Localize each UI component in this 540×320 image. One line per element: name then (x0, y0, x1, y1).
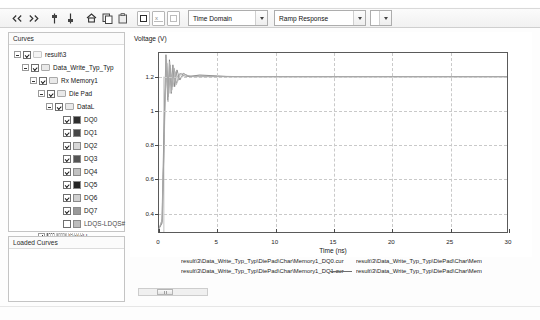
tree-node-checkbox[interactable] (63, 129, 71, 137)
curve-color-swatch[interactable] (73, 181, 81, 189)
tree-node[interactable]: Die Pad (9, 87, 124, 100)
collapse-icon[interactable] (13, 50, 22, 59)
collapse-icon[interactable] (37, 89, 46, 98)
chevron-down-icon[interactable] (379, 11, 391, 25)
tree-node-label: DQ6 (84, 194, 97, 201)
tree-node[interactable]: DQ6 (9, 191, 124, 204)
curve-color-swatch[interactable] (73, 129, 81, 137)
tree-node-label: DQ3 (84, 155, 97, 162)
domain-select[interactable]: Time Domain (188, 10, 268, 26)
y-tick-label: 0.6 (136, 175, 154, 182)
tree-indent-spacer (53, 180, 62, 189)
legend-entry[interactable]: result\3\Data_Write_Typ_Typ\DiePad\Char\… (330, 268, 482, 274)
legend-entry-label: result\3\Data_Write_Typ_Typ\DiePad\Char\… (356, 268, 482, 274)
tree-node-checkbox[interactable] (55, 103, 63, 111)
y-tick-label: 1 (136, 107, 154, 114)
tree-node-checkbox[interactable] (63, 116, 71, 124)
copy-icon[interactable] (100, 10, 115, 27)
x-gridline (451, 53, 452, 232)
tree-node-checkbox[interactable] (31, 64, 39, 72)
x-tick-label: 0 (156, 238, 159, 245)
vertical-marker-icon[interactable] (47, 10, 62, 27)
y-tick-label: 0.4 (136, 209, 154, 216)
curve-color-swatch[interactable] (73, 168, 81, 176)
y-gridline (159, 77, 507, 78)
curves-tree[interactable]: result\3Data_Write_Typ_TypRx Memory1Die … (9, 45, 124, 243)
tree-node[interactable]: DQ4 (9, 165, 124, 178)
x-tick-label: 25 (446, 238, 453, 245)
x-gridline (392, 53, 393, 232)
tree-node-checkbox[interactable] (47, 90, 55, 98)
main-toolbar: x Time Domain Ramp Response (0, 8, 540, 28)
tree-node-checkbox[interactable] (63, 220, 71, 228)
tree-node-checkbox[interactable] (63, 155, 71, 163)
curve-color-swatch[interactable] (73, 155, 81, 163)
curve-color-swatch[interactable] (73, 142, 81, 150)
y-tick (155, 179, 159, 180)
paste-icon[interactable] (116, 10, 131, 27)
legend-entry[interactable]: result\3\Data_Write_Typ_Typ\DiePad\Char\… (155, 268, 344, 274)
x-tick-label: 10 (271, 238, 278, 245)
response-select[interactable]: Ramp Response (274, 10, 366, 26)
extra-select[interactable] (370, 10, 392, 26)
legend-entry[interactable]: result\3\Data_Write_Typ_Typ\DiePad\Char\… (330, 258, 482, 264)
tree-node-checkbox[interactable] (63, 194, 71, 202)
curve-color-swatch[interactable] (73, 116, 81, 124)
y-tick (155, 214, 159, 215)
tree-node[interactable]: DQ1 (9, 126, 124, 139)
tree-node[interactable]: result\3 (9, 48, 124, 61)
x-gridline (217, 53, 218, 232)
tree-node-checkbox[interactable] (39, 77, 47, 85)
tree-indent-spacer (53, 141, 62, 150)
tree-node[interactable]: DQ7 (9, 204, 124, 217)
folder-icon (41, 64, 50, 71)
home-icon[interactable] (84, 10, 99, 27)
tree-node-checkbox[interactable] (23, 51, 31, 59)
tree-node[interactable]: DQ3 (9, 152, 124, 165)
legend-entry[interactable]: result\3\Data_Write_Typ_Typ\DiePad\Char\… (155, 258, 344, 264)
tree-node-checkbox[interactable] (63, 142, 71, 150)
chevron-down-icon[interactable] (255, 11, 267, 25)
tree-node-checkbox[interactable] (63, 207, 71, 215)
curve-color-swatch[interactable] (73, 220, 81, 228)
legend-color-line (330, 261, 352, 262)
x-tick (509, 229, 510, 233)
plot-area[interactable] (158, 52, 508, 233)
collapse-icon[interactable] (21, 63, 30, 72)
tree-node-checkbox[interactable] (63, 181, 71, 189)
tree-node-label: DQ0 (84, 116, 97, 123)
y-tick (155, 145, 159, 146)
tree-node[interactable]: DQ2 (9, 139, 124, 152)
tree-node[interactable]: DQ5 (9, 178, 124, 191)
tree-node[interactable]: DQ0 (9, 113, 124, 126)
tree-node[interactable]: Rx Memory1 (9, 74, 124, 87)
x-gridline (334, 53, 335, 232)
prev-marker-icon[interactable] (10, 10, 25, 27)
tree-node-label: DQ5 (84, 181, 97, 188)
window-top-margin (0, 0, 540, 7)
tree-node[interactable]: DataL (9, 100, 124, 113)
collapse-icon[interactable] (29, 76, 38, 85)
legend-entry-label: result\3\Data_Write_Typ_Typ\DiePad\Char\… (356, 258, 482, 264)
tree-node-checkbox[interactable] (63, 168, 71, 176)
chevron-down-icon[interactable] (353, 11, 365, 25)
y-tick-label: 1.2 (136, 72, 154, 79)
collapse-icon[interactable] (45, 102, 54, 111)
legend-hscrollbar-thumb[interactable] (157, 289, 173, 295)
zoom-y-icon[interactable] (167, 11, 180, 26)
zoom-box-icon[interactable] (137, 11, 150, 26)
legend-hscrollbar[interactable] (138, 288, 208, 296)
y-tick (155, 111, 159, 112)
waveform-trace (159, 58, 507, 229)
curve-color-swatch[interactable] (73, 194, 81, 202)
tree-node[interactable]: Data_Write_Typ_Typ (9, 61, 124, 74)
loaded-curves-title: Loaded Curves (9, 237, 124, 249)
tree-node[interactable]: LDQS-LDQS# (9, 217, 124, 230)
curve-color-swatch[interactable] (73, 207, 81, 215)
tree-indent-spacer (53, 115, 62, 124)
zoom-x-icon[interactable]: x (152, 11, 165, 26)
legend-color-line (155, 271, 177, 272)
vertical-marker-alt-icon[interactable] (63, 10, 78, 27)
tree-node-label: result\3 (45, 51, 66, 58)
next-marker-icon[interactable] (26, 10, 41, 27)
